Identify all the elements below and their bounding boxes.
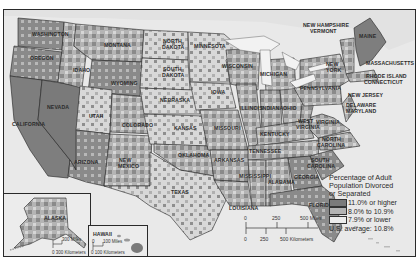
state-label-tennessee: TENNESSEE [249, 149, 281, 155]
state-label-oregon: OREGON [30, 56, 54, 62]
state-label-wisconsin: WISCONSIN [222, 64, 253, 70]
state-label-missouri: MISSOURI [214, 126, 240, 132]
state-label-north-dakota-2: DAKOTA [162, 45, 184, 51]
state-label-kentucky: KENTUCKY [260, 132, 290, 138]
hawaii-scale-zero: 0 [92, 239, 95, 244]
hawaii-scale-km: 0 100 Kilometers [91, 250, 125, 255]
scale-km-0: 0 [244, 236, 247, 242]
state-label-vermont: VERMONT [310, 29, 337, 35]
scale-miles-250: 250 [272, 215, 280, 221]
state-label-iowa: IOWA [211, 90, 225, 96]
state-label-washington: WASHINGTON [32, 32, 69, 38]
alaska-inset: ALASKA 300 Miles 0 300 Kilometers [3, 193, 91, 257]
legend-label-low: 7.9% or lower [348, 216, 391, 223]
state-label-utah: UTAH [89, 114, 103, 120]
alaska-scale-km: 0 300 Kilometers [52, 250, 86, 255]
state-label-illinois: ILLINOIS [240, 106, 263, 112]
state-label-wyoming: WYOMING [111, 81, 138, 87]
map-legend: Percentage of Adult Population Divorced … [329, 174, 415, 232]
state-label-massachusetts: MASSACHUSETTS [366, 61, 414, 67]
state-label-arizona: ARIZONA [74, 160, 98, 166]
state-label-louisiana: LOUISIANA [229, 206, 258, 212]
hawaii-inset: HAWAII 0 100 Miles 0 100 Kilometers [88, 225, 148, 257]
state-label-colorado: COLORADO [122, 123, 153, 129]
state-label-minnesota: MINNESOTA [194, 44, 226, 50]
state-label-georgia: GEORGIA [294, 175, 319, 181]
state-label-nevada: NEVADA [47, 105, 69, 111]
legend-swatch-mid [329, 207, 347, 215]
alaska-label: ALASKA [44, 216, 66, 222]
alaska-scale-miles: 300 Miles [62, 237, 81, 242]
us-average-text: U.S. average: 10.8% [329, 225, 415, 232]
state-label-maine: MAINE [359, 34, 376, 40]
legend-title-line-3: or Separated [329, 190, 415, 198]
state-label-indiana: INDIANA [261, 106, 283, 112]
state-label-alabama: ALABAMA [268, 180, 295, 186]
state-label-ohio: OHIO [283, 106, 297, 112]
state-label-montana: MONTANA [104, 43, 131, 49]
state-label-idaho: IDAHO [73, 68, 90, 74]
state-label-south-dakota-2: DAKOTA [162, 73, 184, 79]
state-label-maryland: MARYLAND [346, 109, 376, 115]
state-label-oklahoma: OKLAHOMA [178, 153, 209, 159]
legend-swatch-low [329, 216, 347, 224]
legend-item-high: 11.0% or higher [329, 199, 415, 207]
state-label-north-carolina-2: CAROLINA [317, 143, 345, 149]
state-label-west-virginia-2: VIRGINIA [296, 125, 320, 131]
scale-km-250: 250 [260, 236, 268, 242]
state-label-kansas: KANSAS [174, 126, 197, 132]
scale-miles-0: 0 [244, 215, 247, 221]
state-label-new-jersey: NEW JERSEY [348, 93, 383, 99]
state-label-pennsylvania: PENNSYLVANIA [300, 86, 341, 92]
scale-km-500: 500 Kilometers [280, 236, 313, 242]
state-label-connecticut: CONNECTICUT [364, 80, 403, 86]
state-label-texas: TEXAS [171, 190, 189, 196]
state-label-new-york-2: YORK [326, 68, 341, 74]
alaska-shape [4, 194, 90, 257]
state-label-california: CALIFORNIA [12, 122, 45, 128]
scale-miles-500: 500 Miles [300, 215, 321, 221]
legend-label-mid: 8.0% to 10.9% [348, 208, 394, 215]
state-label-new-mexico-2: MEXICO [118, 164, 139, 170]
state-label-michigan: MICHIGAN [260, 72, 287, 78]
legend-item-low: 7.9% or lower [329, 215, 415, 223]
legend-swatch-high [329, 199, 347, 207]
legend-item-mid: 8.0% to 10.9% [329, 207, 415, 215]
legend-label-high: 11.0% or higher [348, 199, 397, 206]
hawaii-scale-miles: 100 Miles [103, 239, 122, 244]
state-label-south-carolina-2: CAROLINA [307, 164, 335, 170]
state-label-mississippi: MISSISSIPPI [239, 174, 271, 180]
state-label-arkansas: ARKANSAS [214, 158, 244, 164]
state-label-nebraska: NEBRASKA [160, 98, 190, 104]
hawaii-label: HAWAII [93, 232, 112, 238]
